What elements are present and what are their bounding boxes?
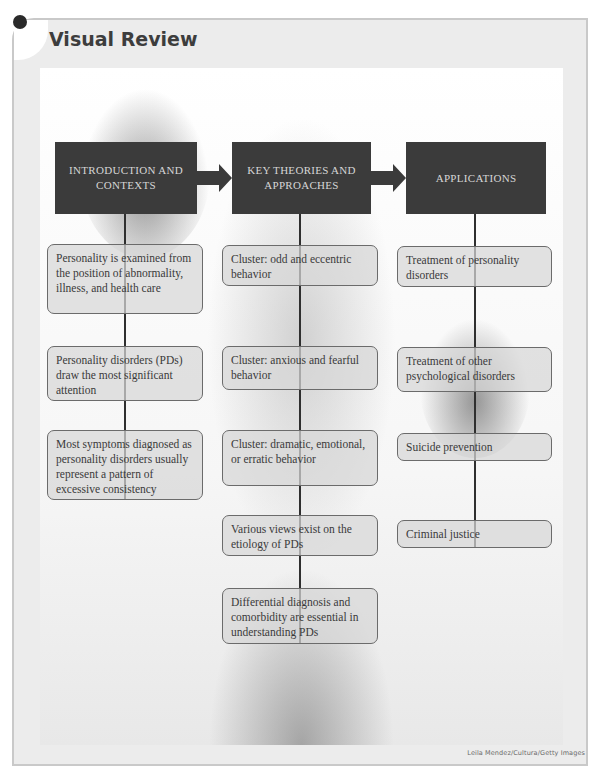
node-application-4: Criminal justice — [397, 520, 552, 548]
node-theory-1: Cluster: odd and eccentric behavior — [222, 245, 378, 286]
node-theory-3: Cluster: dramatic, emotional, or erratic… — [222, 430, 378, 486]
node-theory-5: Differential diagnosis and comorbidity a… — [222, 588, 378, 644]
page-title: Visual Review — [49, 28, 198, 50]
node-application-3: Suicide prevention — [397, 433, 552, 461]
node-intro-1: Personality is examined from the positio… — [47, 244, 203, 314]
header-introduction-and-contexts: Introduction and Contexts — [55, 142, 197, 214]
arrow-right-icon — [371, 164, 406, 192]
node-theory-2: Cluster: anxious and fearful behavior — [222, 346, 378, 390]
header-key-theories-and-approaches: Key Theories and Approaches — [232, 142, 371, 214]
node-application-1: Treatment of personality disorders — [397, 246, 552, 287]
node-theory-4: Various views exist on the etiology of P… — [222, 515, 378, 556]
node-application-2: Treatment of other psychological disorde… — [397, 347, 552, 392]
header-applications: Applications — [406, 142, 546, 214]
arrow-right-icon — [197, 164, 232, 192]
bullet-dot-icon — [13, 15, 27, 29]
node-intro-3: Most symptoms diagnosed as personality d… — [47, 430, 203, 500]
node-intro-2: Personality disorders (PDs) draw the mos… — [47, 346, 203, 401]
photo-credit: Leila Mendez/Cultura/Getty Images — [467, 749, 585, 757]
